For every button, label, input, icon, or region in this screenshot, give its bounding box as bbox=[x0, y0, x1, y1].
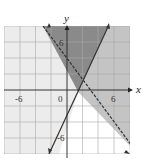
x-axis-label: x bbox=[135, 83, 141, 95]
y-tick-label: 6 bbox=[59, 38, 64, 48]
origin-label: 0 bbox=[58, 94, 63, 104]
inequality-graph: x y -6 0 6 6 -6 bbox=[0, 0, 150, 167]
y-axis-label: y bbox=[63, 12, 69, 24]
x-axis-arrow-icon bbox=[128, 88, 133, 93]
x-tick-label: -6 bbox=[15, 94, 23, 104]
y-tick-label: -6 bbox=[57, 133, 65, 143]
x-tick-label: 6 bbox=[111, 94, 116, 104]
